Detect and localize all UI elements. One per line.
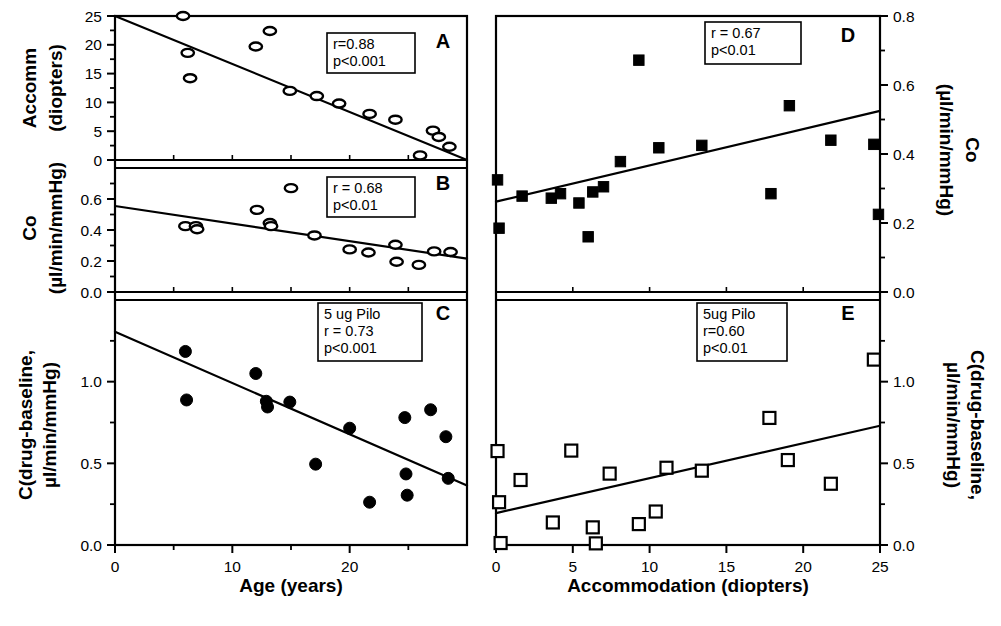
yticklabel-A-2: 10 (85, 94, 103, 111)
yaxis-title-b-line2: (µl/min/mmHg) (45, 162, 66, 294)
stat-dose-C: 5 ug Pilo (324, 306, 380, 322)
data-point-D-15 (826, 135, 836, 145)
data-point-A-9 (389, 116, 401, 124)
data-point-B-10 (389, 241, 401, 249)
data-point-B-9 (362, 248, 374, 256)
data-point-E-9 (633, 518, 645, 530)
data-point-B-5 (265, 222, 277, 230)
xticklabel-C-2: 20 (341, 558, 359, 575)
data-point-C-4 (262, 401, 274, 413)
yticklabel-D-4: 0.8 (893, 8, 915, 25)
data-point-B-7 (308, 231, 320, 239)
yaxis-title-c-line1: C(drug-baseline, (15, 350, 36, 500)
data-point-B-14 (444, 248, 456, 256)
data-point-A-10 (414, 151, 426, 159)
data-point-C-12 (425, 404, 437, 416)
data-point-D-4 (555, 188, 565, 198)
data-point-E-1 (493, 496, 505, 508)
data-point-C-10 (400, 468, 412, 480)
stat-dose-E: 5ug Pilo (703, 306, 755, 322)
yaxis-title-e-line1: C(drug-baseline, (967, 350, 988, 500)
yticklabel-B-1: 0.2 (80, 253, 102, 270)
data-point-D-2 (517, 191, 527, 201)
panel-letter-D: D (841, 24, 855, 46)
yaxis-title-d-line1: Co (962, 137, 983, 162)
data-point-C-1 (181, 394, 193, 406)
xticklabel-E-5: 25 (871, 558, 888, 575)
stat-r-A: r=0.88 (333, 36, 375, 52)
yaxis-title-b-line1: Co (19, 215, 40, 240)
stat-p-D: p<0.01 (711, 42, 756, 58)
data-point-D-7 (588, 187, 598, 197)
data-point-E-16 (868, 354, 880, 366)
data-point-A-4 (264, 27, 276, 35)
data-point-D-11 (654, 143, 664, 153)
data-point-C-13 (440, 431, 452, 443)
data-point-D-1 (494, 223, 504, 233)
yaxis-title-d-line2: (µl/min/mmHg) (936, 84, 957, 216)
xticklabel-E-2: 10 (641, 558, 659, 575)
data-point-A-5 (284, 87, 296, 95)
regression-line-E (496, 426, 880, 513)
data-point-E-14 (782, 454, 794, 466)
data-point-E-12 (696, 465, 708, 477)
data-point-E-8 (604, 468, 616, 480)
yticklabel-C-1: 0.5 (80, 455, 102, 472)
data-point-C-5 (284, 396, 296, 408)
data-point-B-2 (191, 225, 203, 233)
data-point-E-11 (660, 462, 672, 474)
data-point-C-9 (399, 412, 411, 424)
panel-letter-A: A (436, 30, 450, 52)
xaxis-title-left: Age (years) (239, 575, 343, 596)
data-point-D-14 (784, 101, 794, 111)
panel-letter-B: B (436, 172, 450, 194)
data-point-C-0 (179, 345, 191, 357)
data-point-A-6 (311, 92, 323, 100)
yticklabel-D-0: 0.0 (893, 284, 915, 301)
data-point-B-11 (390, 258, 402, 266)
panel-letter-E: E (841, 302, 854, 324)
data-point-E-2 (495, 537, 507, 549)
yticklabel-E-0: 0.0 (893, 537, 915, 554)
data-point-C-6 (310, 458, 322, 470)
yticklabel-C-2: 1.0 (80, 373, 102, 390)
data-point-C-2 (250, 368, 262, 380)
data-point-B-13 (428, 247, 440, 255)
data-point-B-6 (285, 184, 297, 192)
xticklabel-E-1: 5 (568, 558, 577, 575)
stat-r-C: r = 0.73 (324, 323, 374, 339)
data-point-A-3 (250, 43, 262, 51)
data-point-A-12 (433, 133, 445, 141)
stat-r-B: r = 0.68 (333, 180, 383, 196)
yaxis-title-c-line2: µl/min/mmHg) (39, 362, 60, 488)
data-point-E-7 (590, 537, 602, 549)
data-point-A-2 (184, 74, 196, 82)
yticklabel-A-3: 15 (85, 65, 102, 82)
yticklabel-C-0: 0.0 (80, 537, 102, 554)
data-point-D-17 (873, 209, 883, 219)
stat-r-D: r = 0.67 (711, 25, 761, 41)
data-point-D-0 (492, 175, 502, 185)
data-point-B-3 (251, 206, 263, 214)
yaxis-title-a-line1: Accomm (19, 48, 40, 128)
right-column-frame (496, 16, 880, 545)
data-point-B-12 (413, 261, 425, 269)
data-point-C-14 (442, 472, 454, 484)
yticklabel-D-1: 0.2 (893, 215, 915, 232)
stat-r-E: r=0.60 (703, 323, 745, 339)
data-point-B-8 (343, 245, 355, 253)
data-point-D-13 (766, 188, 776, 198)
data-point-D-9 (615, 156, 625, 166)
data-point-E-4 (547, 516, 559, 528)
data-point-C-11 (401, 489, 413, 501)
data-point-E-6 (587, 521, 599, 533)
yticklabel-B-3: 0.6 (80, 191, 102, 208)
data-point-A-8 (363, 110, 375, 118)
yticklabel-A-4: 20 (85, 36, 103, 53)
data-point-E-13 (763, 412, 775, 424)
yticklabel-B-0: 0.0 (80, 284, 102, 301)
yticklabel-D-2: 0.4 (893, 146, 915, 163)
data-point-E-3 (515, 474, 527, 486)
figure-root: 05101520250.00.20.40.60.00.51.0010200.00… (0, 0, 1001, 626)
data-point-D-6 (583, 232, 593, 242)
